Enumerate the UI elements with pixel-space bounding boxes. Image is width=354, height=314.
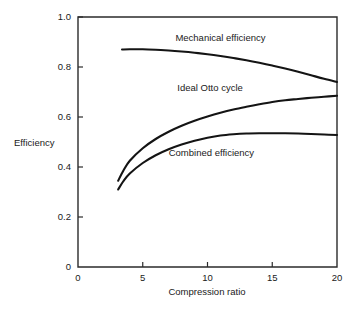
x-tick-label: 15 — [267, 272, 278, 283]
y-tick-label: 0.2 — [58, 211, 71, 222]
y-tick-label: 0.4 — [58, 161, 71, 172]
annotation-mechanical-efficiency: Mechanical efficiency — [175, 32, 265, 43]
y-axis-title: Efficiency — [14, 137, 55, 148]
y-tick-label: 0.6 — [58, 111, 71, 122]
x-tick-label: 20 — [332, 272, 343, 283]
x-tick-label: 0 — [75, 272, 80, 283]
annotation-combined-efficiency: Combined efficiency — [169, 147, 255, 158]
x-tick-label: 5 — [140, 272, 145, 283]
efficiency-vs-compression-ratio-chart: 0.20.40.60.81.0 05101520 0 Efficiency Co… — [0, 0, 354, 314]
chart-svg: 0.20.40.60.81.0 05101520 0 Efficiency Co… — [0, 0, 354, 314]
x-axis-title: Compression ratio — [168, 286, 245, 297]
y-axis-zero-label: 0 — [66, 261, 71, 272]
annotation-ideal-otto-cycle: Ideal Otto cycle — [177, 82, 242, 93]
x-tick-label: 10 — [202, 272, 213, 283]
y-tick-label: 0.8 — [58, 61, 71, 72]
y-tick-label: 1.0 — [58, 11, 71, 22]
